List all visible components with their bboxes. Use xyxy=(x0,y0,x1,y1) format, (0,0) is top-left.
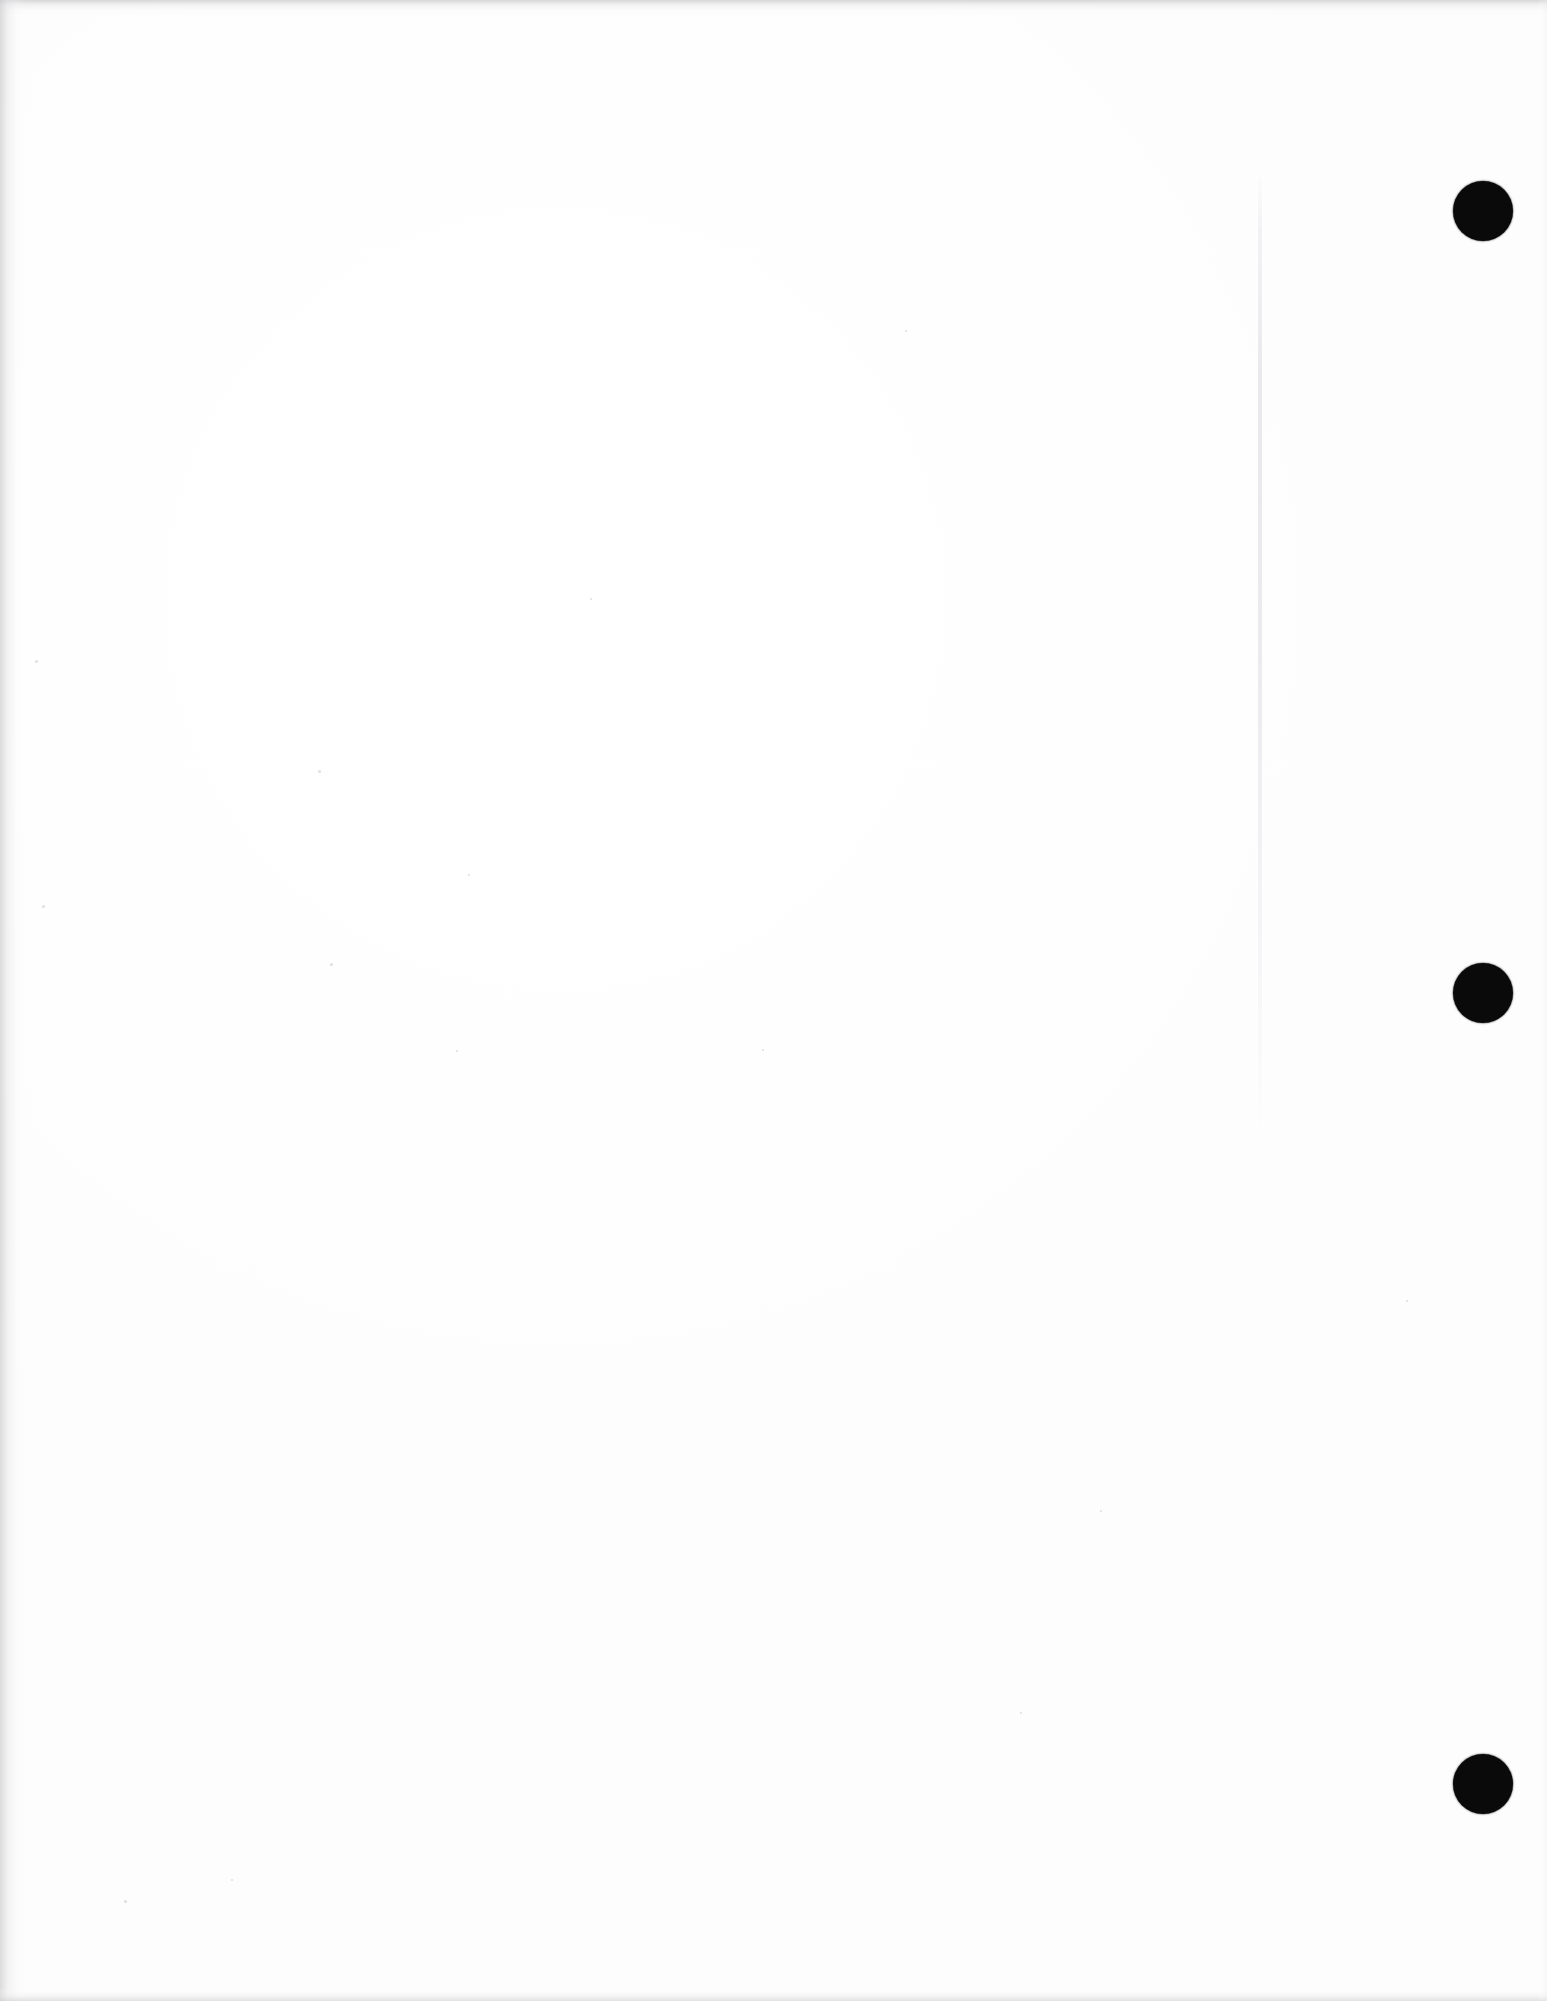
scanned-document-page xyxy=(0,0,1547,2001)
scan-speck xyxy=(231,1879,233,1881)
scan-speck xyxy=(35,660,38,663)
scan-edge-right xyxy=(1537,0,1547,2001)
scan-speck xyxy=(124,1900,127,1903)
scan-edge-top xyxy=(0,0,1547,16)
registration-mark-top xyxy=(1453,181,1513,241)
registration-mark-bottom xyxy=(1453,1754,1513,1814)
scan-speck xyxy=(42,905,45,908)
registration-mark-middle xyxy=(1453,963,1513,1023)
fold-crease-line xyxy=(1258,172,1262,1137)
scan-edge-bottom xyxy=(0,1987,1547,2001)
scan-edge-left xyxy=(0,0,26,2001)
page-body-text xyxy=(120,120,1220,1820)
scan-speck xyxy=(1406,1300,1408,1302)
